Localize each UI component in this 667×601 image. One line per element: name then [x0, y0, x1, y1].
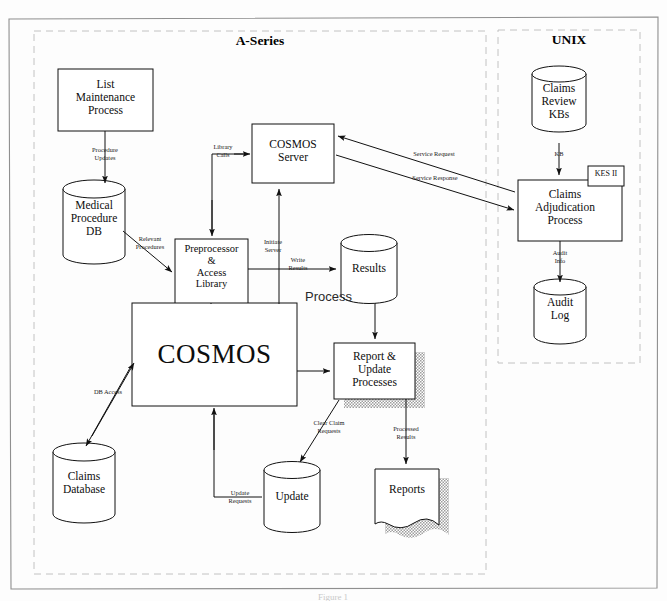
- edge-db-access: [86, 363, 134, 446]
- node-preprocessor-access-library[interactable]: [175, 239, 248, 304]
- node-audit-log[interactable]: [534, 279, 586, 344]
- architecture-diagram: [0, 0, 667, 601]
- node-cosmos-server[interactable]: [252, 124, 334, 183]
- node-kes-ii[interactable]: [588, 166, 624, 186]
- node-list-maintenance-process[interactable]: [58, 69, 153, 131]
- node-medical-procedure-db[interactable]: [63, 180, 125, 264]
- figure-canvas: A-Series UNIX List Maintenance Process M…: [0, 0, 667, 601]
- edge-relevant-procedures: [123, 231, 172, 272]
- edge-clear-claim-requests: [300, 400, 339, 462]
- node-cosmos[interactable]: [132, 303, 297, 406]
- node-results[interactable]: [341, 235, 397, 304]
- node-report-update-processes[interactable]: [334, 343, 425, 408]
- edge-update-requests: [214, 408, 262, 497]
- node-claims-database[interactable]: [53, 443, 115, 523]
- node-update[interactable]: [264, 462, 320, 533]
- node-reports[interactable]: [375, 469, 449, 538]
- edge-library-calls: [212, 154, 250, 236]
- node-claims-adjudication-process[interactable]: [518, 180, 622, 241]
- node-claims-review-kbs[interactable]: [532, 66, 586, 132]
